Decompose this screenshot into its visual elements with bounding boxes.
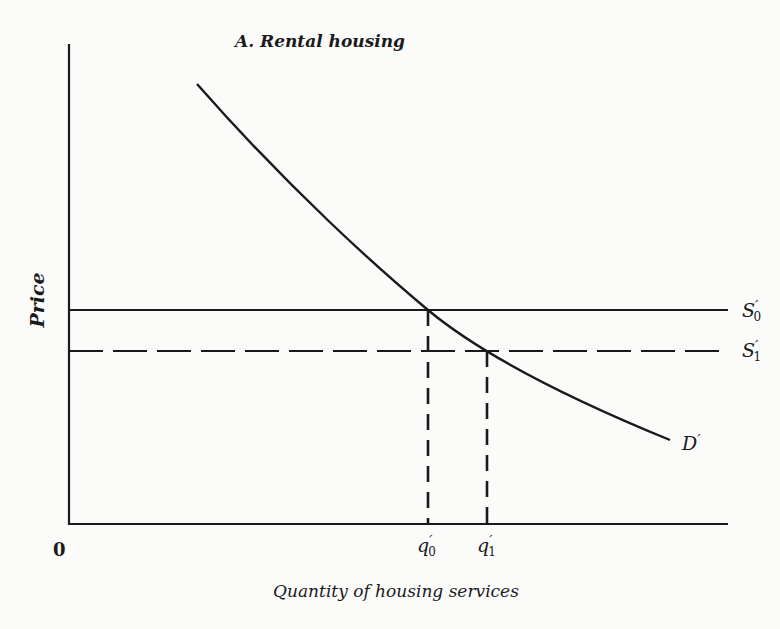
rental-housing-chart: A. Rental housing Price 0 S′0 S′1 D′ q′0… [0, 0, 780, 629]
supply-label-s0: S′0 [742, 297, 761, 324]
panel-title: A. Rental housing [233, 31, 405, 51]
origin-label: 0 [53, 539, 66, 560]
q1-label: q′1 [477, 533, 496, 559]
demand-label: D′ [681, 431, 701, 454]
q0-label: q′0 [417, 533, 436, 559]
demand-curve [197, 84, 670, 440]
x-axis-label: Quantity of housing services [273, 581, 519, 601]
supply-label-s1: S′1 [742, 337, 761, 364]
y-axis-label: Price [26, 272, 48, 328]
